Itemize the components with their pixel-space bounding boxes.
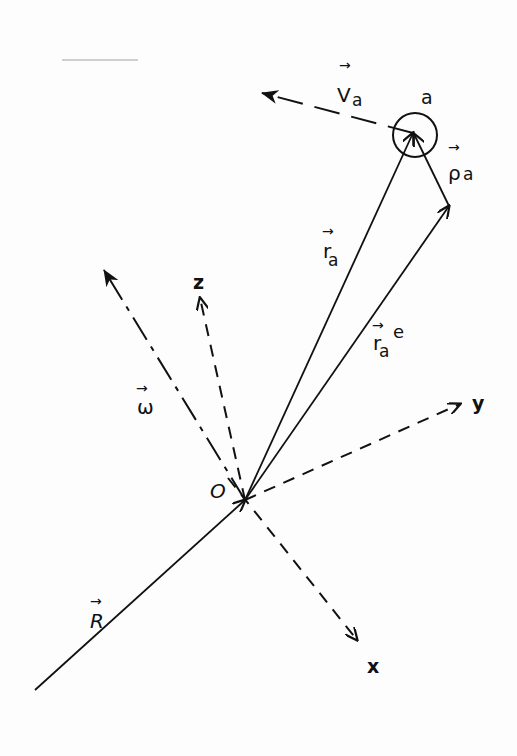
vector-omega bbox=[104, 270, 245, 500]
label-R: → R bbox=[90, 593, 104, 633]
label-rho-a: → ρ a bbox=[448, 139, 473, 185]
svg-text:e: e bbox=[393, 321, 404, 342]
vector-r-a bbox=[245, 133, 413, 500]
vector-r-a-e bbox=[245, 206, 449, 500]
svg-text:→: → bbox=[448, 139, 460, 155]
svg-text:→: → bbox=[322, 223, 334, 239]
axis-x bbox=[228, 478, 357, 640]
svg-text:ρ: ρ bbox=[448, 161, 461, 185]
diagram-canvas: → V a a → ρ a → r a → r a e → ω z y x O … bbox=[0, 0, 517, 756]
svg-text:a: a bbox=[328, 250, 338, 270]
svg-text:a: a bbox=[379, 341, 389, 361]
svg-text:ω: ω bbox=[137, 395, 154, 419]
vector-rho-a bbox=[414, 134, 449, 206]
label-omega: → ω bbox=[136, 380, 154, 419]
label-origin: O bbox=[210, 479, 226, 503]
label-V-a: → V a bbox=[337, 57, 362, 110]
label-particle-a: a bbox=[421, 86, 433, 108]
svg-text:→: → bbox=[90, 593, 102, 609]
label-r-a: → r a bbox=[322, 223, 338, 270]
svg-text:R: R bbox=[90, 609, 104, 633]
label-x-axis: x bbox=[367, 655, 379, 677]
svg-text:a: a bbox=[352, 90, 362, 110]
svg-text:V: V bbox=[337, 83, 351, 107]
label-r-a-e: → r a e bbox=[372, 317, 404, 361]
label-y-axis: y bbox=[472, 392, 485, 414]
vector-R bbox=[35, 500, 245, 690]
axis-z bbox=[200, 298, 245, 500]
svg-text:→: → bbox=[136, 380, 148, 396]
svg-text:→: → bbox=[339, 57, 351, 73]
label-z-axis: z bbox=[193, 271, 204, 293]
svg-text:a: a bbox=[463, 164, 473, 184]
